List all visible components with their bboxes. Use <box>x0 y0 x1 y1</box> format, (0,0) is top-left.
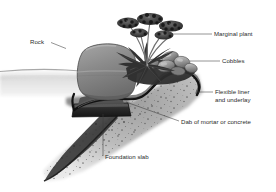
pond-edge-diagram: Rock Marginal plant Cobbles Flexible lin… <box>0 0 276 192</box>
label-marginal-plant-text: Marginal plant <box>214 30 253 37</box>
label-cobbles-text: Cobbles <box>222 57 245 64</box>
label-flexible-liner-text-2: and underlay <box>215 96 251 103</box>
label-flexible-liner-text-1: Flexible liner <box>215 88 250 95</box>
label-mortar-text: Dab of mortar or concrete <box>181 118 252 125</box>
label-rock-text: Rock <box>30 38 45 45</box>
cross-section-illustration: Rock Marginal plant Cobbles Flexible lin… <box>0 0 276 192</box>
label-foundation-slab-text: Foundation slab <box>105 153 149 160</box>
